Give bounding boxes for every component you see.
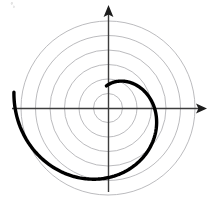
polar-spiral-figure [0, 0, 214, 198]
spiral-curve [14, 81, 157, 179]
x-axis [12, 104, 207, 114]
spiral-series [14, 81, 157, 179]
polar-plot-svg [0, 0, 214, 198]
y-axis [104, 5, 114, 192]
corner-artifact-speck [9, 1, 16, 9]
